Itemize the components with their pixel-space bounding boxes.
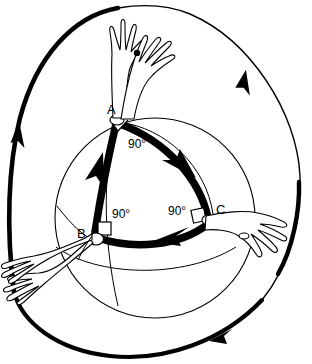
angle-label-b: 90° [112, 208, 130, 220]
vertex-label-c: C [216, 203, 225, 216]
arm-at-C [205, 212, 287, 257]
edge-A-to-B-arrowhead [85, 152, 104, 188]
angle-label-c: 90° [168, 205, 186, 217]
thumb-C [239, 233, 249, 239]
outer-arc-right-thick-tail [278, 182, 299, 274]
thumb-tip-A [134, 50, 140, 56]
outer-arc-bottom [14, 292, 262, 357]
right-angle-marker-B [98, 222, 111, 235]
angle-label-a: 90° [128, 138, 146, 150]
figure-canvas: A B C 90° 90° 90° [0, 0, 312, 364]
vertex-label-b: B [77, 227, 86, 240]
spherical-triangle-diagram [0, 0, 312, 364]
vertex-label-a: A [107, 103, 116, 116]
outer-arc-right [118, 6, 300, 300]
outer-arc-right-arrowhead [234, 68, 255, 95]
